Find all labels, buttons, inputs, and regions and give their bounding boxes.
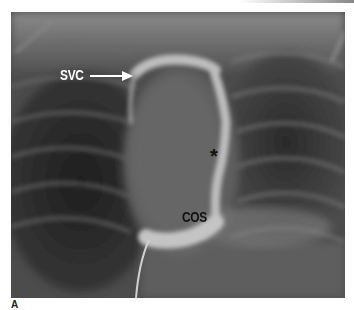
xray-drawing <box>11 12 345 298</box>
panel-label: A <box>11 299 18 310</box>
asterisk-marker: * <box>210 145 217 168</box>
top-edge-shading <box>240 0 354 3</box>
cos-label: COS <box>182 209 207 225</box>
radiograph-image: SVC * COS <box>11 12 345 298</box>
svc-label: SVC <box>60 67 84 83</box>
